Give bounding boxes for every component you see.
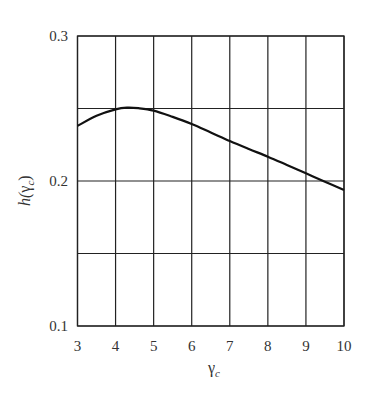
x-tick-label: 3 bbox=[74, 338, 82, 354]
x-tick-label: 7 bbox=[226, 338, 234, 354]
y-tick-labels: 0.10.20.3 bbox=[49, 28, 68, 334]
grid-lines bbox=[78, 36, 345, 326]
x-tick-label: 5 bbox=[150, 338, 158, 354]
y-tick-label: 0.3 bbox=[49, 28, 68, 44]
x-tick-labels: 345678910 bbox=[74, 338, 352, 354]
x-axis-label: γc bbox=[207, 359, 220, 379]
x-tick-label: 8 bbox=[264, 338, 272, 354]
data-curve bbox=[78, 108, 345, 190]
x-tick-label: 6 bbox=[188, 338, 196, 354]
y-axis-label: h(γc) bbox=[16, 175, 36, 206]
chart: 345678910 0.10.20.3 γc h(γc) bbox=[0, 0, 371, 394]
y-tick-label: 0.2 bbox=[49, 173, 68, 189]
y-tick-label: 0.1 bbox=[49, 318, 68, 334]
x-tick-label: 10 bbox=[337, 338, 352, 354]
x-tick-label: 9 bbox=[302, 338, 310, 354]
x-tick-label: 4 bbox=[112, 338, 120, 354]
